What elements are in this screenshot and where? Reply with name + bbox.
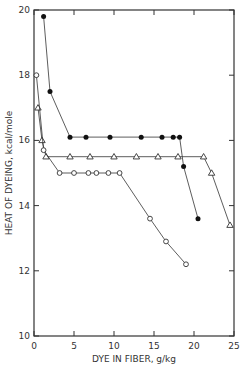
y-tick-label: 16	[19, 135, 31, 145]
marker-open-circle	[34, 73, 39, 78]
marker-open-circle	[86, 171, 91, 176]
marker-open-triangle	[67, 154, 73, 159]
marker-filled-circle	[84, 135, 89, 140]
marker-open-triangle	[111, 154, 117, 159]
y-tick-label: 18	[19, 70, 31, 80]
marker-open-circle	[184, 262, 189, 267]
marker-open-circle	[57, 171, 62, 176]
marker-open-circle	[94, 171, 99, 176]
marker-filled-circle	[181, 164, 186, 169]
marker-open-triangle	[200, 154, 206, 159]
series-line-open-circle	[36, 75, 186, 264]
marker-filled-circle	[48, 89, 53, 94]
y-axis-label: HEAT OF DYEING, kcal/mole	[4, 110, 14, 235]
marker-filled-circle	[177, 135, 182, 140]
marker-filled-circle	[41, 14, 46, 19]
series-line-filled-circle	[44, 17, 198, 219]
x-tick-label: 0	[31, 341, 37, 351]
y-tick-label: 14	[19, 201, 31, 211]
marker-open-triangle	[35, 105, 41, 110]
x-tick-label: 5	[71, 341, 77, 351]
marker-open-triangle	[208, 170, 214, 175]
marker-filled-circle	[160, 135, 165, 140]
marker-open-triangle	[133, 154, 139, 159]
marker-filled-circle	[68, 135, 73, 140]
marker-open-triangle	[87, 154, 93, 159]
marker-filled-circle	[196, 216, 201, 221]
y-tick-label: 12	[19, 266, 30, 276]
x-tick-label: 20	[188, 341, 200, 351]
heat-of-dyeing-chart: 0510152025101214161820DYE IN FIBER, g/kg…	[0, 0, 244, 365]
x-tick-label: 25	[228, 341, 239, 351]
series-line-open-triangle	[38, 108, 230, 225]
marker-open-triangle	[155, 154, 161, 159]
x-tick-label: 10	[108, 341, 120, 351]
marker-open-circle	[106, 171, 111, 176]
marker-filled-circle	[171, 135, 176, 140]
x-axis-label: DYE IN FIBER, g/kg	[92, 354, 176, 364]
y-tick-label: 20	[19, 5, 31, 15]
marker-open-circle	[41, 148, 46, 153]
marker-open-circle	[117, 171, 122, 176]
marker-open-triangle	[175, 154, 181, 159]
marker-open-triangle	[39, 137, 45, 142]
marker-open-circle	[148, 216, 153, 221]
marker-open-circle	[164, 239, 169, 244]
y-tick-label: 10	[19, 331, 31, 341]
x-tick-label: 15	[148, 341, 159, 351]
marker-open-triangle	[227, 222, 233, 227]
marker-filled-circle	[108, 135, 113, 140]
marker-open-circle	[72, 171, 77, 176]
marker-filled-circle	[139, 135, 144, 140]
